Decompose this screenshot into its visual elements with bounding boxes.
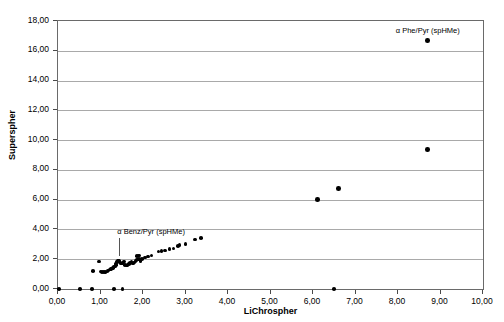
- data-point: [150, 254, 154, 258]
- y-axis-ticks: 0,002,004,006,008,0010,0012,0014,0016,00…: [0, 20, 57, 290]
- plot-area: α Phe/Pyr (spHMe)α Benz/Pyr (spHMe): [57, 20, 484, 290]
- x-tick-label: 2,00: [122, 297, 162, 306]
- data-point: [97, 260, 101, 264]
- y-tick-label: 12,00: [0, 105, 49, 114]
- y-tick-label: 14,00: [0, 75, 49, 84]
- annotation-phe-pyr: α Phe/Pyr (spHMe): [396, 26, 460, 35]
- x-tick-mark: [355, 290, 356, 294]
- x-tick-label: 5,00: [250, 297, 290, 306]
- data-point: [184, 242, 188, 246]
- x-tick-mark: [440, 290, 441, 294]
- x-tick-mark: [227, 290, 228, 294]
- data-point: [336, 186, 341, 191]
- x-tick-label: 4,00: [207, 297, 247, 306]
- gridline: [58, 51, 483, 52]
- data-point: [199, 236, 203, 240]
- y-tick-label: 18,00: [0, 16, 49, 25]
- x-tick-mark: [142, 290, 143, 294]
- x-tick-mark: [482, 290, 483, 294]
- annotation-benz-pyr: α Benz/Pyr (spHMe): [117, 227, 185, 236]
- y-tick-label: 4,00: [0, 224, 49, 233]
- y-tick-label: 8,00: [0, 164, 49, 173]
- data-point: [91, 269, 95, 273]
- data-point: [315, 197, 320, 202]
- y-tick-label: 2,00: [0, 254, 49, 263]
- x-tick-label: 0,00: [37, 297, 77, 306]
- y-tick-label: 16,00: [0, 45, 49, 54]
- y-tick-label: 6,00: [0, 194, 49, 203]
- y-tick-label: 10,00: [0, 135, 49, 144]
- x-tick-label: 3,00: [165, 297, 205, 306]
- x-tick-mark: [100, 290, 101, 294]
- gridline: [58, 200, 483, 201]
- annotation-arrow-benz-pyr: [119, 238, 120, 256]
- gridline: [58, 170, 483, 171]
- x-tick-mark: [270, 290, 271, 294]
- x-tick-mark: [57, 290, 58, 294]
- gridline: [58, 110, 483, 111]
- data-point: [172, 247, 176, 251]
- data-point: [137, 254, 141, 258]
- x-tick-mark: [185, 290, 186, 294]
- x-axis-title: LiChrospher: [57, 306, 484, 316]
- data-point: [168, 247, 172, 251]
- x-tick-label: 9,00: [420, 297, 460, 306]
- x-tick-label: 1,00: [80, 297, 120, 306]
- y-tick-label: 0,00: [0, 284, 49, 293]
- data-point: [425, 147, 430, 152]
- data-point: [178, 243, 182, 247]
- x-tick-mark: [312, 290, 313, 294]
- x-tick-label: 10,00: [462, 297, 502, 306]
- x-tick-label: 8,00: [377, 297, 417, 306]
- data-point: [163, 249, 167, 253]
- x-tick-label: 7,00: [335, 297, 375, 306]
- x-tick-mark: [397, 290, 398, 294]
- x-tick-label: 6,00: [292, 297, 332, 306]
- gridline: [58, 81, 483, 82]
- data-point: [193, 238, 197, 242]
- gridline: [58, 140, 483, 141]
- data-point: [425, 38, 430, 43]
- scatter-chart: Superspher 0,002,004,006,008,0010,0012,0…: [0, 0, 504, 322]
